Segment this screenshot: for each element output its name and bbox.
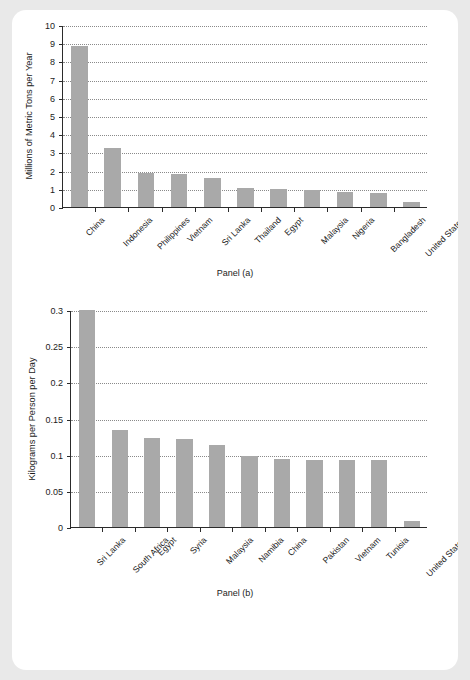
x-axis-category-label: Nigeria (350, 215, 376, 241)
x-axis-tick (135, 528, 136, 532)
bar (209, 445, 225, 527)
y-axis-tick (59, 208, 63, 209)
gridline (71, 383, 427, 384)
y-axis-tick (59, 26, 63, 27)
gridline (63, 99, 427, 100)
x-axis-category-label: Malaysia (319, 215, 350, 246)
panel-b-plot-area (70, 311, 427, 528)
y-axis-tick-label: 7 (50, 76, 55, 86)
y-axis-tick-label: 5 (50, 112, 55, 122)
panel-a-caption: Panel (a) (12, 268, 458, 278)
y-axis-tick (59, 99, 63, 100)
x-axis-tick (395, 528, 396, 532)
y-axis-tick-label: 0.2 (50, 378, 63, 388)
y-axis-tick (67, 420, 71, 421)
bar (370, 193, 387, 207)
x-axis-category-label: Syria (187, 535, 208, 556)
y-axis-tick (67, 492, 71, 493)
y-axis-tick (67, 383, 71, 384)
x-axis-category-label: Malaysia (224, 535, 255, 566)
y-axis-tick-label: 8 (50, 57, 55, 67)
x-axis-category-label: Egypt (282, 215, 305, 238)
bar (404, 521, 420, 527)
figure-card: Millions of Metric Tons per Year Panel (… (12, 10, 458, 670)
bar (104, 148, 121, 207)
y-axis-tick-label: 0.15 (45, 415, 63, 425)
y-axis-tick-label: 0.05 (45, 487, 63, 497)
bar (337, 192, 354, 207)
x-axis-category-label: United States (424, 535, 458, 579)
y-axis-tick-label: 0.1 (50, 451, 63, 461)
x-axis-tick (394, 208, 395, 212)
x-axis-tick (294, 208, 295, 212)
panel-a-y-axis-label: Millions of Metric Tons per Year (24, 53, 34, 180)
bar (112, 430, 128, 527)
x-axis-tick (361, 208, 362, 212)
x-axis-category-label: Bangladesh (389, 215, 428, 254)
y-axis-tick (59, 190, 63, 191)
y-axis-tick (59, 172, 63, 173)
y-axis-tick-label: 9 (50, 39, 55, 49)
gridline (71, 311, 427, 312)
panel-a: Millions of Metric Tons per Year Panel (… (12, 10, 458, 300)
bar (274, 459, 290, 527)
x-axis-category-label: Sri Lanka (220, 215, 253, 248)
y-axis-tick-label: 4 (50, 130, 55, 140)
figure: Millions of Metric Tons per Year Panel (… (12, 10, 458, 670)
y-axis-tick-label: 0.25 (45, 342, 63, 352)
bar (71, 46, 88, 207)
gridline (63, 26, 427, 27)
y-axis-tick (59, 153, 63, 154)
y-axis-tick (59, 81, 63, 82)
y-axis-tick-label: 6 (50, 94, 55, 104)
x-axis-category-label: Tunisia (384, 535, 410, 561)
x-axis-tick (228, 208, 229, 212)
x-axis-tick (200, 528, 201, 532)
y-axis-tick-label: 10 (45, 21, 55, 31)
bar (241, 456, 257, 527)
panel-b-caption: Panel (b) (12, 588, 458, 598)
x-axis-category-label: China (83, 215, 106, 238)
bar (79, 310, 95, 527)
bar (204, 178, 221, 207)
gridline (63, 81, 427, 82)
bar (144, 438, 160, 527)
gridline (71, 347, 427, 348)
x-axis-tick (362, 528, 363, 532)
gridline (63, 44, 427, 45)
gridline (63, 62, 427, 63)
panel-a-plot-area (62, 26, 427, 208)
y-axis-tick-label: 2 (50, 167, 55, 177)
bar (306, 460, 322, 527)
y-axis-tick-label: 1 (50, 185, 55, 195)
x-axis-tick (195, 208, 196, 212)
y-axis-tick (67, 347, 71, 348)
x-axis-category-label: Sri Lanka (95, 535, 128, 568)
x-axis-category-label: Philippines (155, 215, 191, 251)
x-axis-tick (167, 528, 168, 532)
bar (339, 460, 355, 527)
x-axis-tick (232, 528, 233, 532)
y-axis-tick (67, 456, 71, 457)
y-axis-tick-label: 3 (50, 148, 55, 158)
bar (176, 439, 192, 527)
gridline (63, 117, 427, 118)
bar (138, 173, 155, 207)
x-axis-tick (265, 528, 266, 532)
bar (237, 188, 254, 207)
x-axis-category-label: Namibia (256, 535, 285, 564)
bar (171, 174, 188, 207)
x-axis-category-label: China (286, 535, 309, 558)
y-axis-tick (67, 311, 71, 312)
x-axis-tick (128, 208, 129, 212)
y-axis-tick (59, 62, 63, 63)
x-axis-tick (95, 208, 96, 212)
panel-b: Kilograms per Person per Day Panel (b) 0… (12, 300, 458, 620)
x-axis-tick (102, 528, 103, 532)
bar (270, 189, 287, 207)
y-axis-tick (59, 135, 63, 136)
x-axis-category-label: Indonesia (121, 215, 154, 248)
y-axis-tick (67, 528, 71, 529)
panel-b-y-axis-label: Kilograms per Person per Day (26, 357, 36, 480)
x-axis-tick (297, 528, 298, 532)
